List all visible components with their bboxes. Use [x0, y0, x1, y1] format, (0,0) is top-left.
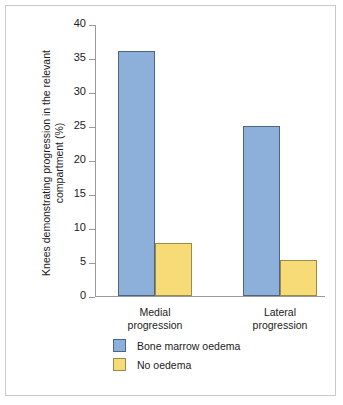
y-tick-mark: [89, 127, 95, 128]
y-tick-label: 25: [74, 119, 86, 131]
legend-swatch-icon-yellow: [113, 358, 126, 371]
y-tick-mark: [89, 25, 95, 26]
y-tick-label: 15: [74, 187, 86, 199]
plot-area: 0510152025303540: [95, 25, 325, 297]
legend-label-no-oedema: No oedema: [137, 359, 191, 371]
chart-figure: Knees demonstrating progression in the r…: [0, 0, 343, 405]
y-tick-mark: [89, 59, 95, 60]
y-tick-label: 35: [74, 51, 86, 63]
legend-swatch-icon-blue: [113, 339, 126, 352]
y-tick-label: 0: [80, 289, 86, 301]
y-tick-mark: [89, 263, 95, 264]
bar-no-oedema-group-1: [280, 260, 317, 296]
legend-item-bone-marrow-oedema: Bone marrow oedema: [113, 336, 240, 355]
x-axis-label-line: progression: [95, 319, 215, 332]
x-axis-label-group-1: Lateralprogression: [220, 306, 340, 331]
y-tick-mark: [89, 161, 95, 162]
y-axis-line: [95, 25, 96, 297]
bar-no-oedema-group-0: [155, 243, 192, 296]
y-axis-title: Knees demonstrating progression in the r…: [40, 18, 66, 308]
legend-label-bone-marrow-oedema: Bone marrow oedema: [137, 340, 240, 352]
y-tick-mark: [89, 93, 95, 94]
y-tick-label: 5: [80, 255, 86, 267]
x-axis-label-line: Medial: [95, 306, 215, 319]
x-axis-line: [95, 296, 325, 297]
bar-bone-marrow-oedema-group-0: [118, 51, 155, 296]
x-axis-label-group-0: Medialprogression: [95, 306, 215, 331]
y-tick-mark: [89, 297, 95, 298]
y-tick-mark: [89, 229, 95, 230]
y-axis-title-line-1: Knees demonstrating progression in the r…: [40, 18, 53, 308]
legend-item-no-oedema: No oedema: [113, 355, 240, 374]
y-tick-label: 10: [74, 221, 86, 233]
bar-bone-marrow-oedema-group-1: [243, 126, 280, 296]
chart-legend: Bone marrow oedema No oedema: [113, 336, 240, 374]
y-tick-label: 30: [74, 85, 86, 97]
y-tick-label: 20: [74, 153, 86, 165]
x-axis-label-line: Lateral: [220, 306, 340, 319]
y-tick-label: 40: [74, 17, 86, 29]
y-axis-title-line-2: compartment (%): [53, 18, 66, 308]
x-axis-label-line: progression: [220, 319, 340, 332]
y-tick-mark: [89, 195, 95, 196]
